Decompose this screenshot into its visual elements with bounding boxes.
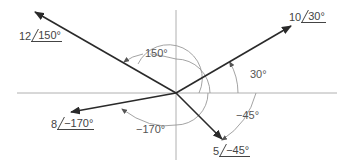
phasor-diagram-canvas [0, 0, 358, 163]
phasor-label-10-30: 10 30° [289, 10, 326, 23]
phasor-label-8-minus-170: 8 −170° [51, 117, 94, 130]
arc-minus-170 [122, 93, 208, 126]
phasor-label-12-150: 12 150° [19, 29, 62, 42]
phasor-angle: 30° [301, 10, 326, 23]
phasor-vector-5-minus-45 [176, 93, 222, 139]
phasor-label-5-minus-45: 5 −45° [213, 144, 250, 157]
phasor-magnitude: 10 [289, 11, 301, 23]
arc-30 [230, 62, 238, 93]
phasor-angle: −170° [57, 117, 94, 130]
phasor-vector-8-minus-170 [71, 93, 176, 112]
phasor-angle: 150° [31, 29, 62, 42]
phasor-vector-10-30 [176, 26, 291, 93]
phasor-magnitude: 12 [19, 30, 31, 42]
arc-label-minus-45: −45° [236, 109, 259, 121]
arc-label-30: 30° [250, 68, 267, 80]
arc-label-150: 150° [145, 47, 168, 59]
arc-label-minus-170: −170° [136, 123, 165, 135]
phasor-angle: −45° [219, 144, 250, 157]
